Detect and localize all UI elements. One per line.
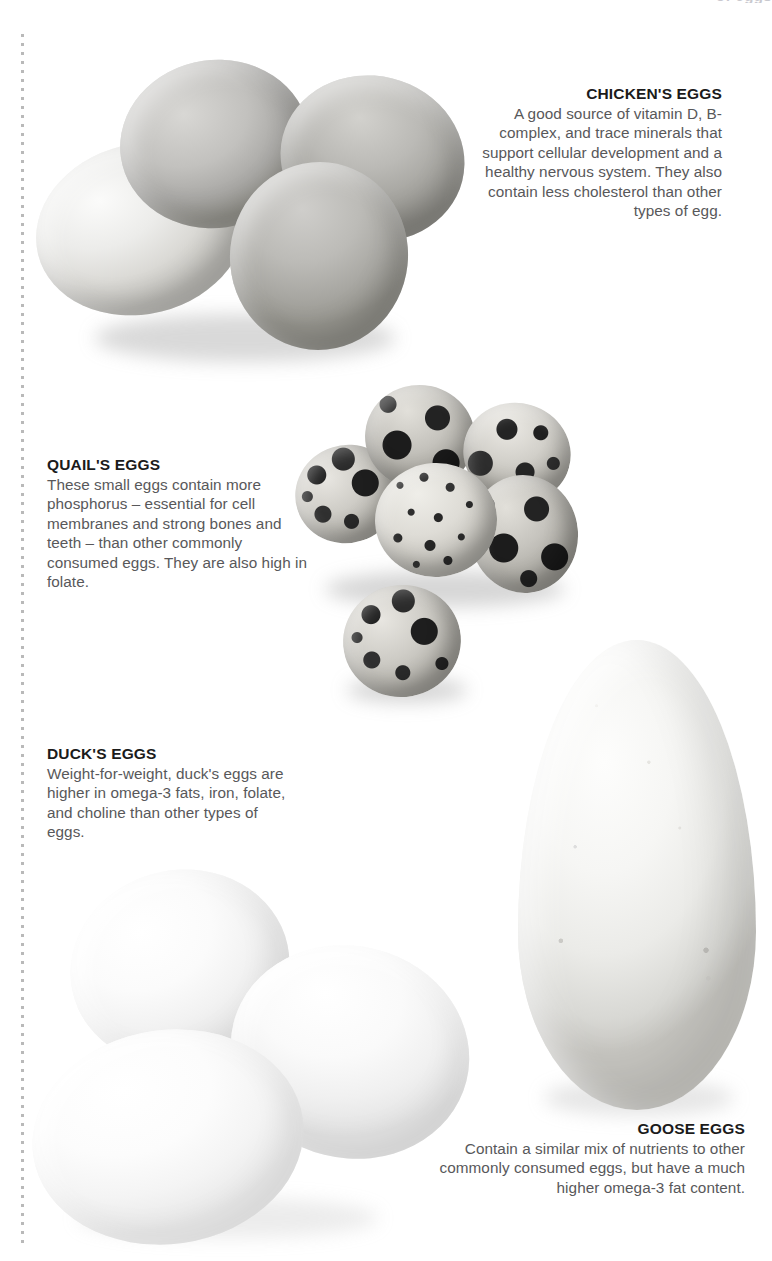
cropped-heading-remnant: of eggs [560, 0, 772, 3]
chicken-eggs-photo [35, 52, 500, 382]
goose-egg-photo [518, 640, 758, 1118]
quail-body: These small eggs contain more phosphorus… [47, 475, 313, 591]
duck-body: Weight-for-weight, duck's eggs are highe… [47, 764, 297, 842]
quail-text-block: QUAIL'S EGGS These small eggs contain mo… [47, 455, 313, 591]
goose-heading: GOOSE EGGS [430, 1119, 745, 1138]
chicken-text-block: CHICKEN'S EGGS A good source of vitamin … [470, 84, 722, 220]
duck-eggs-photo [18, 862, 488, 1246]
quail-heading: QUAIL'S EGGS [47, 455, 313, 474]
duck-heading: DUCK'S EGGS [47, 744, 297, 763]
chicken-body: A good source of vitamin D, B-complex, a… [470, 104, 722, 220]
duck-text-block: DUCK'S EGGS Weight-for-weight, duck's eg… [47, 744, 297, 842]
goose-text-block: GOOSE EGGS Contain a similar mix of nutr… [430, 1119, 745, 1197]
goose-body: Contain a similar mix of nutrients to ot… [430, 1139, 745, 1197]
goose-egg [518, 640, 756, 1110]
chicken-heading: CHICKEN'S EGGS [470, 84, 722, 103]
